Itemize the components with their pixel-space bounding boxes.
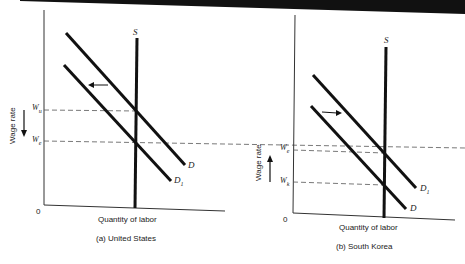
panel-b-demand-curve [311, 106, 406, 209]
panel-a-wage-low-label: We [32, 135, 41, 146]
panel-a-wage-high-dashed [44, 110, 137, 111]
arrow-down-icon [21, 130, 27, 137]
panel-a-demand-new-label: D1 [174, 175, 184, 187]
panel-b-demand-new-curve [313, 75, 416, 188]
panel-b-demand-new-label: D1 [420, 183, 430, 195]
panel-a-demand-new-sub: 1 [181, 181, 184, 187]
panel-a-x-axis-title: Quantity of labor [98, 215, 157, 224]
panel-b-wage-low-label: Wk [280, 176, 289, 187]
panel-b-wage-low-base: W [280, 176, 287, 185]
panel-a-y-axis-title: Wage rate [8, 107, 17, 144]
panel-a-demand-label: D [188, 160, 195, 170]
panel-b-origin-label: 0 [283, 215, 287, 224]
panel-a-wage-high-base: W [32, 103, 39, 112]
panel-b-x-axis [293, 213, 455, 220]
panel-b-wage-low-dashed [293, 182, 384, 185]
panel-b-x-axis-title: Quantity of labor [339, 223, 398, 232]
top-border-band [20, 0, 465, 14]
panel-b-y-axis-title: Wage rate [254, 144, 263, 181]
panel-a-demand-new-curve [64, 65, 171, 181]
panel-a-wage-low-base: W [32, 135, 39, 144]
panel-b-demand-label: D [410, 203, 417, 213]
panel-b-caption: (b) South Korea [336, 242, 392, 251]
panel-b-wage-high-base: W [280, 143, 287, 152]
arrow-left-icon [88, 82, 94, 88]
panel-b-supply-curve [384, 47, 386, 218]
panel-a-supply-label: S [133, 27, 138, 37]
panel-b-demand-new-sub: 1 [427, 189, 430, 195]
panel-b-supply-label: S [384, 35, 389, 45]
panel-b-wage-high-sub: e [287, 148, 290, 154]
panel-a-wage-high-sub: u [39, 108, 42, 114]
panel-a-wage-low-sub: e [39, 140, 42, 146]
arrow-right-icon [336, 110, 342, 116]
panel-a-graph [21, 10, 465, 211]
panel-a-caption: (a) United States [96, 234, 156, 243]
panel-b-shift-arrow-line [322, 112, 337, 113]
arrow-up-icon [267, 155, 273, 162]
panel-a-demand-curve [66, 33, 185, 165]
panel-a-wage-high-label: Wu [32, 103, 42, 114]
panel-b-wage-high-dashed [293, 150, 385, 153]
panel-b-wage-low-sub: k [287, 181, 290, 187]
panel-b-y-axis [293, 15, 295, 213]
panel-a-origin-label: 0 [36, 207, 40, 216]
panel-a-supply-curve [135, 38, 137, 208]
panel-b-wage-high-label: We [280, 143, 289, 154]
